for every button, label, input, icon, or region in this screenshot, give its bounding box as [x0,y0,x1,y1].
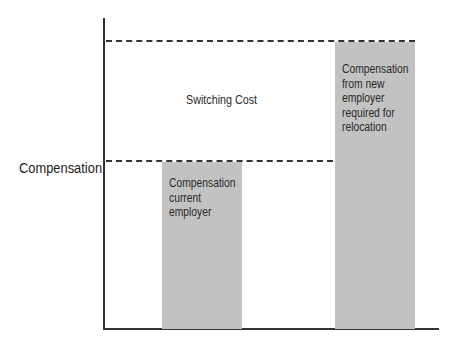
bar-label-new-employer: Compensation from new employer required … [342,62,419,135]
y-axis [103,18,105,330]
dashed-line-new-compensation [106,40,415,42]
y-axis-label: Compensation [19,160,102,176]
bar-label-current-employer: Compensation current employer [169,176,246,220]
dashed-line-current-compensation [106,160,333,162]
switching-cost-label: Switching Cost [186,93,257,107]
